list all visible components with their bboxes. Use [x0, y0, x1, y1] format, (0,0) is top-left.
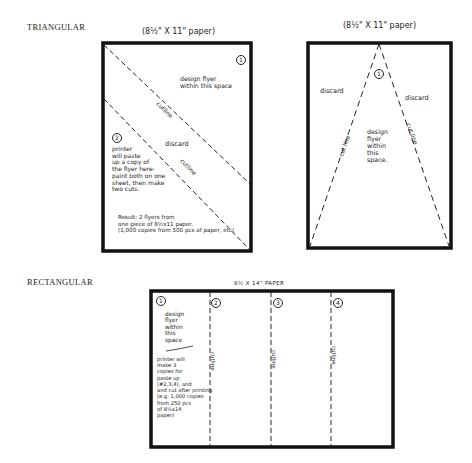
left-piece-1-number: 1 [236, 55, 246, 65]
right-discard-right: discard [405, 95, 429, 102]
left-piece-2-number: 2 [112, 133, 122, 143]
rect-cutline-label-1: cutline [210, 352, 216, 371]
right-design-text: design flyer within this space. [367, 128, 388, 163]
rect-piece-2-number: 2 [211, 298, 221, 308]
left-piece-1-text: design flyer within this space [180, 76, 232, 90]
right-cutline-right [379, 44, 449, 246]
rect-piece-4-number: 4 [333, 298, 343, 308]
rect-design-text: design flyer within this space [165, 311, 184, 343]
rect-cutline-label-3: cutline [331, 346, 337, 365]
left-printer-note: printer will paste up a copy of the flye… [112, 146, 165, 193]
rect-paper-caption: 8½ X 14" PAPER [234, 280, 284, 286]
space-underline [166, 346, 193, 351]
left-result-note: Result: 2 flyers from one piece of 8½x11… [118, 214, 234, 234]
right-piece-number: 1 [374, 69, 384, 79]
rect-printer-note: printer will make 3 copies for paste up … [157, 356, 212, 418]
diagram-lines [0, 0, 472, 463]
rect-piece-3-number: 3 [273, 298, 283, 308]
right-paper-caption: (8½" X 11" paper) [343, 21, 416, 30]
left-discard-label: discard [165, 141, 189, 148]
left-paper-caption: (8½" X 11" paper) [142, 27, 215, 36]
right-discard-left: discard [320, 88, 344, 95]
rect-piece-1-number: 1 [156, 296, 166, 306]
rect-cutline-label-2: cutline [271, 350, 277, 369]
